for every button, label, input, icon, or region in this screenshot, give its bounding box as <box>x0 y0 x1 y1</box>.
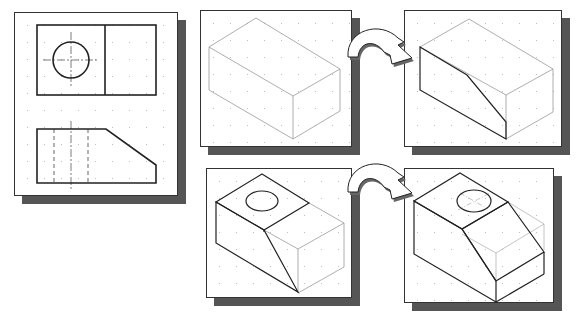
curved-arrow-icon <box>0 0 582 329</box>
